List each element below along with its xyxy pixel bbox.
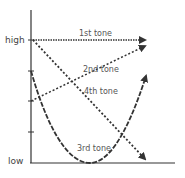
tone-1-label: 1st tone (79, 29, 112, 38)
y-label-low: low (8, 156, 23, 166)
tone-diagram: high low 1st tone 2nd tone 4th tone 3rd … (0, 0, 185, 178)
tone-4-line (33, 40, 145, 159)
tone-2-label: 2nd tone (83, 65, 119, 74)
tone-3-label: 3rd tone (77, 144, 111, 153)
y-label-high: high (5, 35, 25, 45)
tone-4-label: 4th tone (84, 87, 118, 96)
